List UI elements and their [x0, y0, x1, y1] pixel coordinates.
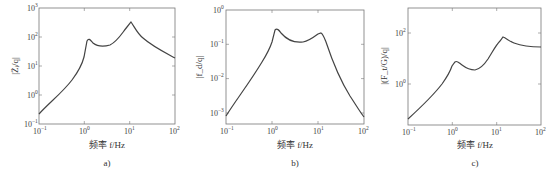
chart-a-frame — [39, 8, 175, 124]
svg-text:100: 100 — [267, 125, 278, 136]
chart-a: 10−1 100 101 102 10−1 100 101 102 103 |Z… — [10, 2, 180, 168]
chart-c-yticks: 100 102 — [395, 27, 406, 89]
svg-text:100: 100 — [447, 126, 458, 137]
chart-b-curve — [226, 29, 364, 117]
chart-c-xticks: 10−1 100 101 102 — [402, 126, 546, 137]
chart-a-caption: a) — [104, 158, 111, 168]
chart-a-xticks: 10−1 100 101 102 — [33, 125, 180, 136]
svg-text:103: 103 — [27, 2, 38, 13]
figure: 10−1 100 101 102 10−1 100 101 102 103 |Z… — [0, 0, 551, 173]
svg-text:102: 102 — [358, 125, 369, 136]
svg-text:100: 100 — [27, 89, 38, 100]
svg-text:10−1: 10−1 — [210, 38, 224, 49]
svg-text:100: 100 — [395, 78, 406, 89]
chart-b-xlabel: 频率 f/Hz — [277, 139, 313, 150]
chart-c-xlabel: 频率 f/Hz — [457, 139, 493, 150]
svg-text:101: 101 — [124, 125, 135, 136]
svg-text:102: 102 — [395, 27, 406, 38]
svg-text:102: 102 — [169, 125, 180, 136]
svg-text:100: 100 — [79, 125, 90, 136]
chart-b-caption: b) — [291, 158, 299, 168]
chart-c-curve — [408, 37, 541, 119]
chart-c-frame — [408, 8, 541, 125]
svg-text:101: 101 — [491, 126, 502, 137]
chart-a-xlabel: 频率 f/Hz — [89, 139, 125, 150]
chart-c-caption: c) — [472, 158, 479, 168]
svg-text:101: 101 — [27, 60, 38, 71]
svg-text:100: 100 — [213, 4, 224, 15]
svg-text:10−1: 10−1 — [402, 126, 416, 137]
chart-b-frame — [226, 10, 364, 124]
svg-text:102: 102 — [535, 126, 546, 137]
chart-a-curve — [39, 22, 175, 114]
chart-b: 10−1 100 101 102 10−3 10−2 10−1 100 |f_d… — [194, 4, 369, 168]
chart-b-xticks: 10−1 100 101 102 — [220, 125, 369, 136]
svg-text:101: 101 — [313, 125, 324, 136]
chart-a-ylabel: |Z̈ᵢ/q| — [10, 57, 20, 75]
svg-text:102: 102 — [27, 31, 38, 42]
svg-text:10−1: 10−1 — [33, 125, 47, 136]
chart-c-ylabel: |(F_t/G)/q| — [379, 47, 389, 85]
svg-text:10−3: 10−3 — [210, 107, 224, 118]
chart-b-yticks: 10−3 10−2 10−1 100 — [210, 4, 224, 118]
svg-text:10−2: 10−2 — [210, 72, 224, 83]
chart-c: 10−1 100 101 102 100 102 |(F_t/G)/q| 频率 … — [379, 8, 546, 168]
chart-b-ylabel: |f_d/q| — [194, 56, 204, 79]
chart-a-yticks: 10−1 100 101 102 103 — [24, 2, 38, 129]
svg-text:10−1: 10−1 — [220, 125, 234, 136]
